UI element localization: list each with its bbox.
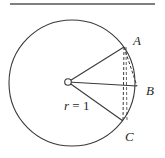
label-c: C	[125, 129, 134, 144]
unit-circle	[9, 20, 135, 146]
unit-circle-diagram: A B C r = 1	[0, 0, 165, 158]
label-b: B	[146, 83, 154, 98]
chord-ac-dashed-inner	[126, 47, 127, 121]
radius-to-a	[68, 47, 124, 82]
radius-label: r = 1	[64, 98, 89, 113]
label-a: A	[132, 33, 141, 48]
center-point-marker	[65, 79, 72, 86]
chord-ac-dashed	[123, 47, 124, 121]
radius-value: = 1	[69, 98, 89, 113]
